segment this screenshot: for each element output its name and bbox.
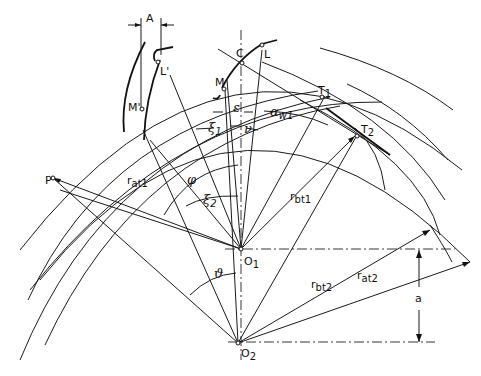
- label-T2: T2: [360, 123, 374, 138]
- line-O1-L: [241, 50, 262, 249]
- label-a: a: [415, 292, 422, 305]
- point-T2: [355, 134, 359, 138]
- radial-lines-O1: [53, 50, 355, 249]
- pitch-circle-arcs: [20, 91, 382, 360]
- label-L-prime: L': [160, 65, 169, 78]
- label-nu: ν: [244, 121, 252, 136]
- point-M-prime: [140, 107, 144, 111]
- label-epsilon: ε: [233, 100, 240, 115]
- dimension-A: A: [128, 12, 174, 110]
- arc-theta: [190, 273, 236, 295]
- label-xi1: ξ1: [208, 120, 222, 137]
- label-r-at1: rat1: [127, 174, 148, 189]
- arc-right-outer: [320, 48, 453, 110]
- line-of-action-segment: [326, 108, 390, 155]
- label-M-prime: M': [128, 101, 141, 114]
- line-O1-phi: [150, 140, 241, 249]
- arc-phi: [164, 165, 238, 215]
- line-O1-rbt1: [241, 136, 355, 249]
- gear-geometry-diagram: A: [0, 0, 481, 376]
- point-L: [260, 43, 264, 47]
- label-P: P: [45, 174, 52, 187]
- label-A: A: [146, 12, 154, 25]
- point-L-prime: [156, 60, 160, 64]
- label-phi: φ: [187, 172, 197, 187]
- line-O1-xi1-left: [170, 75, 241, 249]
- label-O2: O2: [241, 347, 256, 362]
- label-theta: ϑ: [214, 266, 223, 281]
- point-C: [240, 61, 244, 65]
- point-O2: [236, 341, 240, 345]
- label-r-at2: rat2: [357, 269, 378, 284]
- tooth-profile-left-1: [123, 42, 145, 132]
- label-xi2: ξ2: [203, 192, 217, 209]
- arc-inner-short: [430, 225, 452, 262]
- label-M: M: [215, 76, 225, 89]
- label-L: L: [264, 48, 271, 61]
- arc-right-mid: [347, 84, 448, 160]
- arc-r-bt2-end: [300, 100, 440, 235]
- label-O1: O1: [244, 255, 259, 270]
- label-r-bt1: rbt1: [290, 190, 311, 205]
- tooth-profile-center-2: [213, 95, 220, 99]
- label-T1: T1: [317, 84, 331, 99]
- label-r-bt2: rbt2: [311, 278, 332, 293]
- label-C: C: [236, 47, 244, 60]
- dimension-a: a: [415, 250, 422, 342]
- line-O2-T2: [238, 137, 356, 343]
- point-O1: [239, 247, 243, 251]
